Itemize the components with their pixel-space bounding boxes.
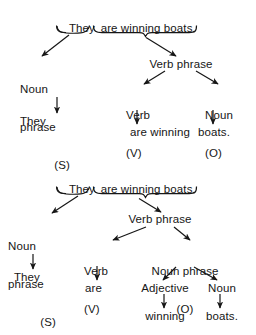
node-label-noun-2: Noun [8, 240, 60, 253]
node-label-verb-marker-2: (V) [84, 303, 108, 316]
node-label-verb: Verb [126, 109, 150, 122]
node-verb-phrase-2: Verb phrase [128, 213, 191, 226]
node-label-object-marker: (O) [205, 147, 233, 160]
node-label-verb-2: Verb [84, 265, 108, 278]
node-word-they-2: They [14, 271, 40, 284]
sentence-part-predicate-2: are winning boats. [101, 183, 196, 195]
node-word-they-1: They [20, 115, 46, 128]
sentence-part-predicate: are winning boats. [101, 22, 196, 34]
edge-verb-phrase-to-verb [144, 71, 165, 84]
sentence-part-subject-2: They [69, 183, 95, 195]
edge-verb-phrase-to-verb-2 [113, 227, 146, 240]
node-word-winning-2: winning [145, 310, 185, 323]
sentence-part-subject: They [69, 22, 95, 34]
sentence-diagram-1: They are winning boats. Noun phrase (S) … [0, 0, 256, 165]
node-label-object-np: Noun phrase [152, 265, 219, 278]
sentence-text-2: They are winning boats. [56, 170, 196, 208]
sentence-diagram-2: They are winning boats. Noun phrase (S) … [0, 165, 256, 335]
edge-verb-phrase-to-object-np [174, 227, 190, 240]
node-word-boats-1: boats. [198, 126, 230, 139]
node-verb-phrase-1: Verb phrase [149, 58, 212, 71]
node-label-subject-marker-2: (S) [8, 316, 60, 329]
node-label-noun-object: Noun [205, 109, 233, 122]
node-label-noun: Noun [20, 83, 74, 96]
sentence-text-1: They are winning boats. [56, 9, 196, 47]
edge-verb-phrase-to-noun [196, 71, 218, 84]
node-word-are-2: are [85, 282, 102, 295]
node-words-are-winning-1: are winning [130, 126, 190, 139]
node-adjective-2: Adjective [141, 282, 189, 295]
node-label-verb-marker: (V) [126, 147, 150, 160]
node-word-boats-2: boats. [206, 310, 238, 323]
node-noun-2: Noun [208, 282, 236, 295]
